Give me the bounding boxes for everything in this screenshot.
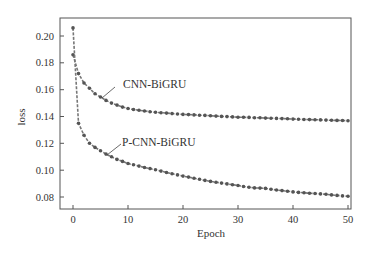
data-point [236, 184, 240, 188]
data-point [258, 116, 262, 120]
loss-chart: 0.08 0.10 0.12 0.14 0.16 0.18 0.20 loss … [0, 0, 369, 253]
data-point [297, 191, 301, 195]
data-point [264, 187, 268, 191]
data-point [324, 193, 328, 197]
data-point [126, 162, 130, 166]
data-point [203, 179, 207, 183]
data-point [137, 109, 141, 113]
data-point [176, 173, 180, 177]
series-label-cnn-bigru: CNN-BiGRU [123, 78, 187, 90]
y-axis-label: loss [15, 108, 27, 125]
data-point [88, 87, 92, 91]
data-point [346, 195, 350, 199]
data-point [280, 189, 284, 193]
x-tick-label: 0 [70, 214, 75, 225]
data-point [209, 180, 213, 184]
data-point [258, 186, 262, 190]
data-point [71, 26, 75, 30]
data-point [225, 182, 229, 186]
data-point [319, 192, 323, 196]
data-point [192, 176, 196, 180]
data-point [137, 164, 141, 168]
data-point [231, 115, 235, 119]
annotation-p-cnn-bigru: P-CNN-BiGRU [107, 136, 196, 155]
data-point [187, 175, 191, 179]
data-point [110, 101, 114, 105]
data-point [308, 191, 312, 195]
data-point [126, 107, 130, 111]
data-point [302, 118, 306, 122]
data-point [220, 115, 224, 119]
data-point [192, 113, 196, 117]
data-point [121, 160, 125, 164]
y-tick-label: 0.18 [36, 57, 54, 68]
data-point [159, 169, 163, 173]
data-point [77, 121, 81, 125]
series-layer [71, 26, 350, 198]
data-point [99, 149, 103, 153]
data-point [77, 72, 81, 76]
data-point [330, 193, 334, 197]
data-point [203, 114, 207, 118]
data-point [291, 190, 295, 194]
data-point [159, 111, 163, 115]
y-tick-label: 0.08 [36, 192, 54, 203]
data-point [291, 117, 295, 121]
data-point [148, 167, 152, 171]
data-point [154, 110, 158, 114]
data-point [247, 186, 251, 190]
data-point [165, 171, 169, 175]
data-point [264, 116, 268, 120]
y-tick-label: 0.12 [36, 138, 54, 149]
y-tick-label: 0.20 [36, 31, 54, 42]
data-point [286, 189, 290, 193]
data-point [132, 108, 136, 112]
data-point [253, 116, 257, 120]
data-point [93, 146, 97, 150]
y-tick-label: 0.14 [36, 111, 55, 122]
data-point [198, 178, 202, 182]
data-point [330, 119, 334, 123]
data-point [220, 181, 224, 185]
x-tick-label: 30 [233, 214, 244, 225]
data-point [115, 158, 119, 162]
series-label-p-cnn-bigru: P-CNN-BiGRU [122, 136, 196, 148]
data-point [148, 110, 152, 114]
data-point [110, 155, 114, 159]
data-point [170, 172, 174, 176]
x-tick-label: 20 [178, 214, 189, 225]
data-point [341, 194, 345, 198]
y-tick-label: 0.16 [36, 84, 54, 95]
data-point [302, 191, 306, 195]
data-point [187, 113, 191, 117]
data-point [242, 185, 246, 189]
x-tick-label: 50 [343, 214, 354, 225]
data-point [143, 166, 147, 170]
data-point [313, 118, 317, 122]
data-point [198, 113, 202, 117]
y-axis: 0.08 0.10 0.12 0.14 0.16 0.18 0.20 loss [15, 31, 64, 203]
data-point [319, 118, 323, 122]
data-point [104, 152, 108, 156]
data-point [154, 168, 158, 172]
data-point [324, 118, 328, 122]
x-tick-label: 10 [123, 214, 134, 225]
series-p-cnn-bigru [71, 26, 350, 198]
data-point [214, 114, 218, 118]
data-point [214, 180, 218, 184]
data-point [280, 117, 284, 121]
data-point [132, 163, 136, 167]
data-point [308, 118, 312, 122]
data-point [335, 119, 339, 123]
annotation-cnn-bigru: CNN-BiGRU [102, 78, 187, 98]
data-point [181, 174, 185, 178]
x-tick-label: 40 [288, 214, 299, 225]
data-point [275, 188, 279, 192]
data-point [115, 103, 119, 107]
data-point [275, 117, 279, 121]
data-point [313, 192, 317, 196]
data-point [143, 109, 147, 113]
data-point [231, 183, 235, 187]
data-point [88, 142, 92, 146]
data-point [181, 113, 185, 117]
